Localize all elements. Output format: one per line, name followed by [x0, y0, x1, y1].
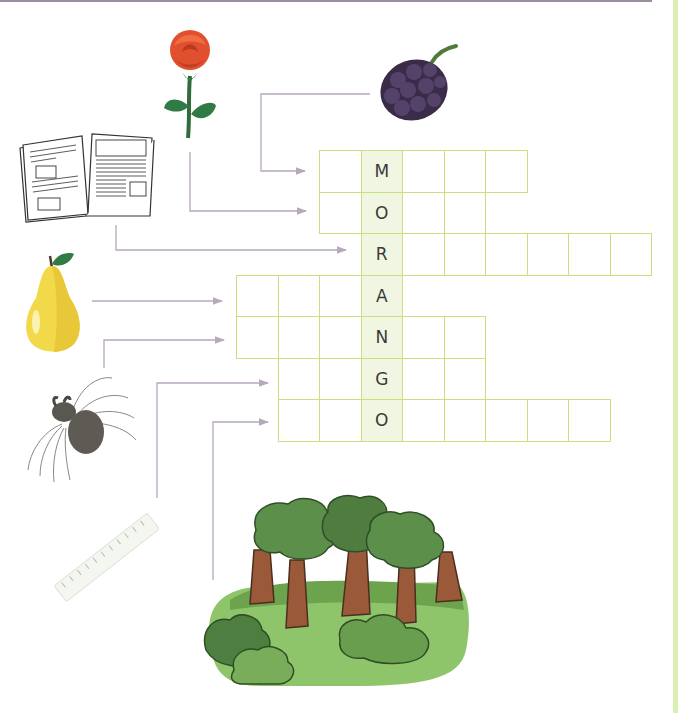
key-letter: G	[375, 369, 388, 389]
crossword-grid: MORANGO	[0, 0, 678, 713]
answer-cell[interactable]	[485, 150, 528, 193]
letter-input[interactable]	[403, 234, 444, 275]
key-letter: A	[376, 286, 388, 306]
letter-input[interactable]	[445, 400, 486, 441]
letter-input[interactable]	[237, 276, 278, 317]
answer-cell[interactable]	[444, 316, 487, 359]
key-cell: M	[361, 150, 404, 193]
letter-input[interactable]	[403, 151, 444, 192]
letter-input[interactable]	[403, 359, 444, 400]
answer-cell[interactable]	[568, 399, 611, 442]
answer-cell[interactable]	[319, 316, 362, 359]
letter-input[interactable]	[445, 151, 486, 192]
letter-input[interactable]	[237, 317, 278, 358]
answer-cell[interactable]	[319, 192, 362, 235]
answer-cell[interactable]	[527, 233, 570, 276]
letter-input[interactable]	[279, 317, 320, 358]
letter-input[interactable]	[486, 234, 527, 275]
letter-input[interactable]	[279, 359, 320, 400]
letter-input[interactable]	[403, 317, 444, 358]
answer-cell[interactable]	[278, 316, 321, 359]
answer-cell[interactable]	[319, 150, 362, 193]
letter-input[interactable]	[528, 234, 569, 275]
letter-input[interactable]	[569, 400, 610, 441]
key-letter: R	[376, 244, 388, 264]
letter-input[interactable]	[279, 400, 320, 441]
letter-input[interactable]	[320, 151, 361, 192]
letter-input[interactable]	[528, 400, 569, 441]
answer-cell[interactable]	[610, 233, 653, 276]
key-letter: O	[375, 410, 388, 430]
letter-input[interactable]	[445, 359, 486, 400]
answer-cell[interactable]	[236, 275, 279, 318]
letter-input[interactable]	[445, 234, 486, 275]
letter-input[interactable]	[486, 151, 527, 192]
key-cell: O	[361, 399, 404, 442]
answer-cell[interactable]	[444, 399, 487, 442]
letter-input[interactable]	[445, 193, 486, 234]
letter-input[interactable]	[403, 193, 444, 234]
answer-cell[interactable]	[444, 358, 487, 401]
answer-cell[interactable]	[236, 316, 279, 359]
key-letter: M	[374, 161, 389, 181]
answer-cell[interactable]	[402, 358, 445, 401]
key-cell: N	[361, 316, 404, 359]
answer-cell[interactable]	[278, 399, 321, 442]
answer-cell[interactable]	[278, 275, 321, 318]
letter-input[interactable]	[445, 317, 486, 358]
letter-input[interactable]	[569, 234, 610, 275]
key-letter: N	[375, 327, 388, 347]
answer-cell[interactable]	[278, 358, 321, 401]
letter-input[interactable]	[279, 276, 320, 317]
answer-cell[interactable]	[485, 233, 528, 276]
letter-input[interactable]	[320, 359, 361, 400]
answer-cell[interactable]	[485, 399, 528, 442]
answer-cell[interactable]	[402, 192, 445, 235]
letter-input[interactable]	[611, 234, 652, 275]
answer-cell[interactable]	[444, 150, 487, 193]
key-letter: O	[375, 203, 388, 223]
letter-input[interactable]	[486, 400, 527, 441]
key-cell: G	[361, 358, 404, 401]
key-cell: A	[361, 275, 404, 318]
answer-cell[interactable]	[402, 150, 445, 193]
answer-cell[interactable]	[402, 399, 445, 442]
answer-cell[interactable]	[319, 358, 362, 401]
answer-cell[interactable]	[527, 399, 570, 442]
letter-input[interactable]	[320, 317, 361, 358]
letter-input[interactable]	[320, 193, 361, 234]
answer-cell[interactable]	[444, 233, 487, 276]
answer-cell[interactable]	[402, 316, 445, 359]
letter-input[interactable]	[320, 276, 361, 317]
letter-input[interactable]	[320, 400, 361, 441]
key-cell: R	[361, 233, 404, 276]
answer-cell[interactable]	[319, 275, 362, 318]
key-cell: O	[361, 192, 404, 235]
answer-cell[interactable]	[444, 192, 487, 235]
answer-cell[interactable]	[402, 233, 445, 276]
answer-cell[interactable]	[319, 399, 362, 442]
answer-cell[interactable]	[568, 233, 611, 276]
letter-input[interactable]	[403, 400, 444, 441]
